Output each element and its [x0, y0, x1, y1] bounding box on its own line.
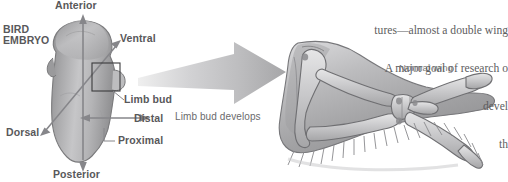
axis-label-dorsal: Dorsal	[6, 127, 39, 139]
axis-label-proximal: Proximal	[118, 135, 163, 147]
embryo-caption-line2: EMBRYO	[3, 35, 49, 47]
axis-label-posterior: Posterior	[53, 169, 100, 181]
body-copy-line-3: devel	[292, 101, 508, 114]
body-copy-line-4: th	[292, 139, 508, 152]
development-arrow-label: Limb bud develops	[175, 111, 261, 123]
body-copy-line-2: A major goal of research o	[292, 63, 508, 76]
figure-canvas: BIRD EMBRYO Anterior Posterior Ventral D…	[0, 0, 508, 182]
body-copy-block: tures—almost a double wing A major goal …	[292, 0, 508, 176]
body-copy-line-1: tures—almost a double wing	[292, 25, 508, 38]
axis-label-anterior: Anterior	[55, 0, 97, 12]
